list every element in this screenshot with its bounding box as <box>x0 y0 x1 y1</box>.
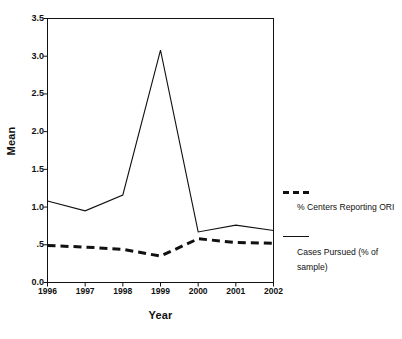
x-axis-title: Year <box>47 309 274 321</box>
x-tick-label: 2001 <box>216 286 256 296</box>
x-tick-label: 2000 <box>178 286 218 296</box>
y-axis-ticks <box>44 19 48 283</box>
legend-swatch-dashed-icon <box>283 191 309 194</box>
legend-label-centers-reporting-ori: % Centers Reporting ORI <box>297 200 402 215</box>
series-line-cases-pursued <box>48 50 274 232</box>
legend-swatch-solid-icon <box>283 236 309 237</box>
x-tick-label: 1997 <box>65 286 105 296</box>
x-tick-label: 1998 <box>103 286 143 296</box>
line-chart: Mean 0.0.51.01.52.02.53.03.5 19961997199… <box>0 0 402 339</box>
series-line-centers-reporting-ori <box>48 239 274 256</box>
x-tick-label: 2002 <box>254 286 294 296</box>
x-tick-label: 1999 <box>141 286 181 296</box>
legend-label-cases-pursued: Cases Pursued (% of sample) <box>297 245 402 275</box>
x-tick-label: 1996 <box>28 286 68 296</box>
